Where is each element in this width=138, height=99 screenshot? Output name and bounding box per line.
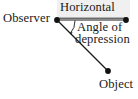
horizontal-label: Horizontal bbox=[60, 1, 115, 14]
angle-of-depression-diagram: Observer Horizontal Angle ofdepression O… bbox=[0, 0, 138, 99]
object-label: Object bbox=[99, 78, 133, 91]
observer-label: Observer bbox=[3, 12, 50, 25]
object-point-dot bbox=[105, 68, 111, 74]
angle-label-line-2: depression bbox=[75, 33, 130, 46]
angle-of-depression-label: Angle ofdepression bbox=[77, 21, 130, 46]
observer-point-dot bbox=[54, 17, 60, 23]
